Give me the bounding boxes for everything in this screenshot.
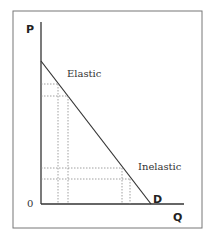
x-axis-label: Q [173, 211, 182, 224]
inelastic-annotation: Inelastic [138, 161, 182, 172]
inelastic-guides [41, 168, 130, 204]
elastic-guides [41, 84, 68, 204]
y-axis-label: P [26, 23, 34, 36]
origin-label: 0 [27, 198, 33, 209]
demand-curve-label: D [153, 193, 162, 206]
demand-curve [41, 61, 151, 204]
demand-chart: P Q 0 D Elastic Inelastic [0, 0, 211, 235]
elastic-annotation: Elastic [67, 68, 102, 79]
